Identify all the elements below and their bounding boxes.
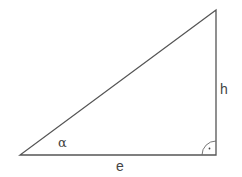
height-label-h: h [220, 81, 228, 97]
triangle [20, 10, 216, 155]
base-label-e: e [116, 158, 124, 174]
right-triangle-diagram: α e h [0, 0, 242, 177]
right-angle-dot [209, 148, 211, 150]
angle-label-alpha: α [58, 135, 67, 150]
